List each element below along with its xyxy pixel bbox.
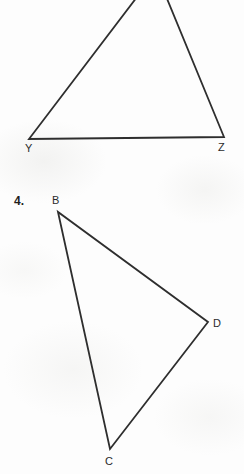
- vertex-label-c: C: [105, 456, 113, 467]
- triangle-bcd-outline: [58, 212, 208, 449]
- vertex-label-b: B: [52, 195, 59, 206]
- figure-4-triangle: [0, 0, 244, 474]
- worksheet-page: Y Z 4. B D C: [0, 0, 244, 474]
- triangle-bcd-paths: [58, 212, 208, 449]
- vertex-label-d: D: [213, 318, 221, 329]
